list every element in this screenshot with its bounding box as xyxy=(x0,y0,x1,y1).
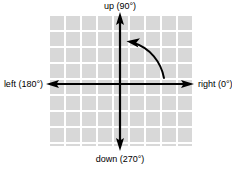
axis-label-left: left (180°) xyxy=(4,80,43,89)
axis-label-up: up (90°) xyxy=(104,2,136,11)
axis-label-down: down (270°) xyxy=(96,155,145,164)
rotation-arc-path xyxy=(134,43,164,78)
rotation-arc-arrowhead-icon xyxy=(127,38,141,47)
axis-label-right: right (0°) xyxy=(198,80,232,89)
direction-angle-diagram: up (90°) down (270°) left (180°) right (… xyxy=(0,0,232,169)
